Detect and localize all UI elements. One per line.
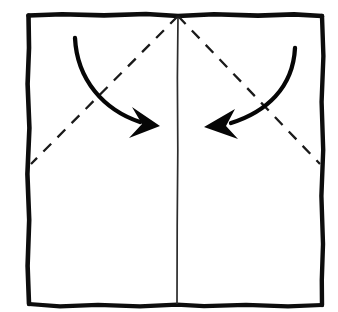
center-vertical-crease — [177, 16, 178, 304]
origami-illustration — [0, 0, 338, 312]
paper-edge-right — [321, 16, 323, 305]
paper-edge-left — [27, 16, 29, 305]
paper-edge-top — [29, 14, 323, 16]
paper-edge-bottom — [29, 304, 322, 306]
origami-diagram — [0, 0, 338, 312]
canvas-background — [0, 0, 338, 312]
